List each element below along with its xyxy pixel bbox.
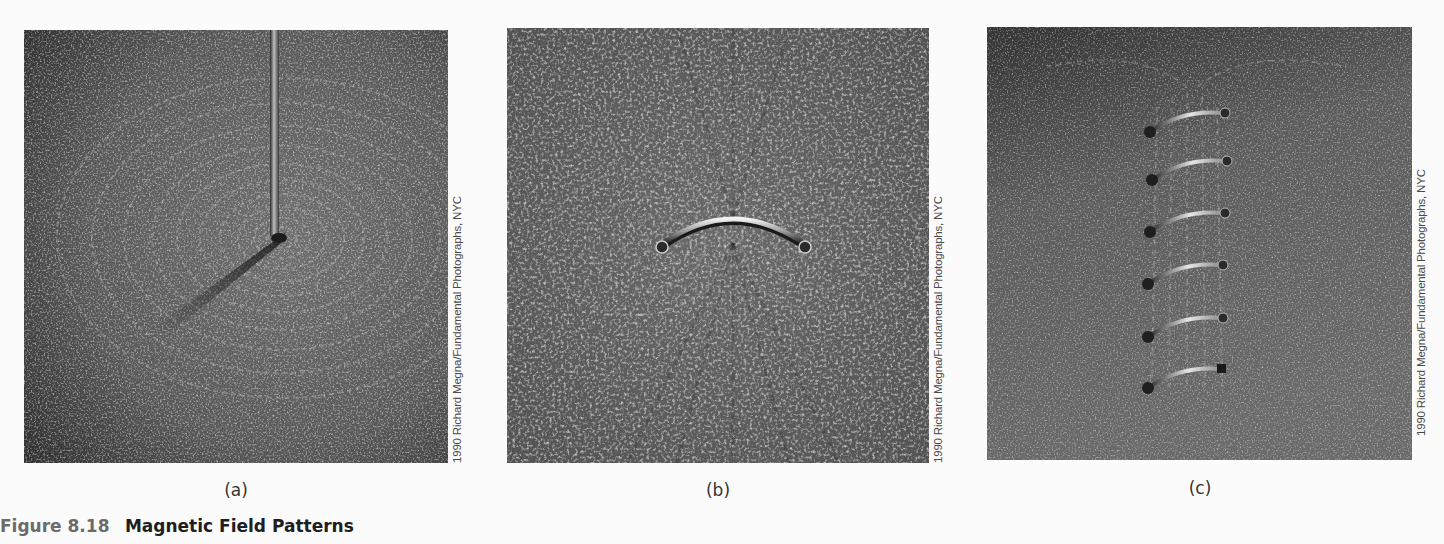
photo-credit-b: 1990 Richard Megna/Fundamental Photograp… <box>932 196 944 463</box>
photo-panel-c <box>987 27 1412 460</box>
iron-filings-current-loop-image <box>507 28 929 463</box>
photo-credit-c: 1990 Richard Megna/Fundamental Photograp… <box>1415 169 1427 436</box>
iron-filings-solenoid-image <box>987 27 1412 460</box>
photo-panel-b <box>507 28 929 463</box>
iron-filings-straight-wire-image <box>24 30 448 463</box>
subfigure-label-a: (a) <box>206 480 266 500</box>
figure-caption: Figure 8.18 Magnetic Field Patterns <box>0 516 354 536</box>
subfigure-label-b: (b) <box>688 480 748 500</box>
subfigure-label-c: (c) <box>1170 478 1230 498</box>
photo-panel-a <box>24 30 448 463</box>
figure-title: Magnetic Field Patterns <box>125 516 354 536</box>
photo-credit-a: 1990 Richard Megna/Fundamental Photograp… <box>451 196 463 463</box>
figure-number: Figure 8.18 <box>0 516 110 536</box>
